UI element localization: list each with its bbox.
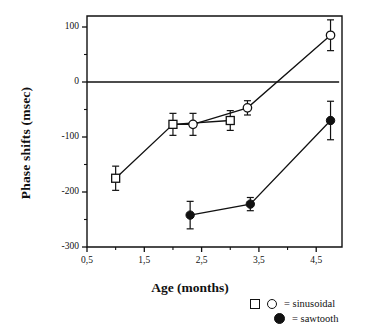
legend-item-sawtooth: = sawtooth bbox=[274, 311, 338, 326]
x-axis-title: Age (months) bbox=[110, 280, 270, 296]
filled-circle-marker-icon bbox=[274, 313, 285, 324]
data-point-sinusoidal-circle bbox=[326, 20, 334, 51]
data-point-sinusoidal-square bbox=[112, 166, 120, 190]
y-axis-title-text: Phase shifts (msec) bbox=[18, 87, 34, 200]
data-point-sawtooth bbox=[326, 101, 334, 140]
x-axis-tick-label: 4,5 bbox=[304, 255, 328, 265]
data-point-sawtooth bbox=[186, 201, 194, 229]
open-square-marker-icon bbox=[250, 299, 260, 309]
open-circle-marker-icon bbox=[267, 299, 277, 309]
legend-label-sawtooth: = sawtooth bbox=[292, 313, 338, 324]
x-axis-tick-label: 2,5 bbox=[190, 255, 214, 265]
open-square-marker-icon bbox=[169, 120, 177, 128]
legend-item-sinusoidal: = sinusoidal bbox=[250, 296, 338, 311]
open-square-marker-icon bbox=[112, 174, 120, 182]
x-axis-tick-label: 1,5 bbox=[132, 255, 156, 265]
y-axis-tick-label: 0 bbox=[74, 76, 79, 86]
filled-circle-marker-icon bbox=[186, 211, 194, 219]
data-point-sinusoidal-circle bbox=[189, 113, 197, 135]
series-line-sinusoidal-circle bbox=[173, 35, 331, 124]
open-square-marker-icon bbox=[226, 117, 234, 125]
legend-label-sinusoidal: = sinusoidal bbox=[284, 298, 335, 309]
x-axis-tick-label: 3,5 bbox=[247, 255, 271, 265]
open-circle-marker-icon bbox=[326, 31, 334, 39]
open-circle-marker-icon bbox=[243, 104, 251, 112]
data-point-sinusoidal-circle bbox=[243, 101, 251, 115]
y-axis-title: Phase shifts (msec) bbox=[14, 58, 38, 228]
y-axis-tick-label: -100 bbox=[62, 131, 79, 141]
series-line-sawtooth bbox=[190, 121, 330, 216]
data-point-sinusoidal-square bbox=[169, 113, 177, 135]
data-point-sawtooth bbox=[246, 198, 254, 211]
legend: = sinusoidal = sawtooth bbox=[250, 296, 338, 326]
figure: Phase shifts (msec) Age (months) = sinus… bbox=[0, 0, 370, 335]
y-axis-tick-label: -200 bbox=[62, 186, 79, 196]
filled-circle-marker-icon bbox=[246, 200, 254, 208]
open-circle-marker-icon bbox=[189, 120, 197, 128]
y-axis-tick-label: -300 bbox=[62, 241, 79, 251]
x-axis-tick-label: 0,5 bbox=[75, 255, 99, 265]
plot-frame bbox=[87, 16, 342, 247]
filled-circle-marker-icon bbox=[326, 116, 334, 124]
y-axis-tick-label: 100 bbox=[65, 21, 79, 31]
